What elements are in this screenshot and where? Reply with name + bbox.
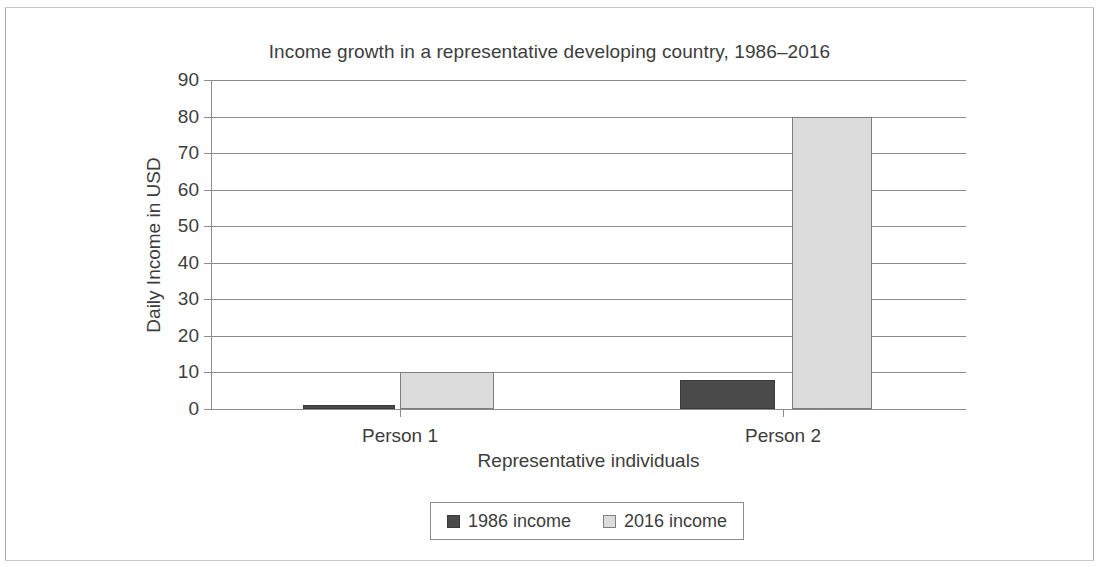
chart-title: Income growth in a representative develo… [0,41,1099,63]
y-axis-tick-label: 70 [178,142,199,164]
y-axis-tick-label: 60 [178,179,199,201]
y-axis-tick [204,409,211,410]
y-axis-tick-label: 20 [178,325,199,347]
bar-person-2-1986 [680,380,775,409]
bar-person-2-2016 [792,117,872,409]
y-axis-tick [204,190,211,191]
x-axis-tick [783,409,784,417]
x-axis-category-label: Person 2 [745,425,821,447]
gridline [211,409,966,410]
y-axis-tick [204,226,211,227]
y-axis-line [211,80,212,410]
y-axis-tick [204,153,211,154]
light-square-swatch [603,515,616,528]
y-axis-tick-label: 80 [178,106,199,128]
dark-square-swatch [447,515,460,528]
legend-entry: 1986 income [447,511,571,532]
figure-border-right [1093,7,1094,560]
legend-entry: 2016 income [603,511,727,532]
y-axis-tick-label: 0 [188,398,199,420]
y-axis-title: Daily Income in USD [143,80,167,410]
gridline [211,80,966,81]
y-axis-tick [204,263,211,264]
y-axis-tick-label: 30 [178,288,199,310]
y-axis-tick-label: 40 [178,252,199,274]
y-axis-tick [204,336,211,337]
y-axis-tick-label: 90 [178,69,199,91]
y-axis-tick [204,117,211,118]
y-axis-tick-label: 10 [178,361,199,383]
x-axis-category-label: Person 1 [362,425,438,447]
figure-border-top [5,7,1094,8]
y-axis-tick [204,372,211,373]
figure-border-left [5,7,6,560]
chart-legend: 1986 income2016 income [430,502,744,540]
legend-label: 2016 income [624,511,727,532]
y-axis-tick [204,299,211,300]
y-axis-tick-label: 50 [178,215,199,237]
legend-label: 1986 income [468,511,571,532]
x-axis-tick [400,409,401,417]
plot-area: 9080706050403020100 Person 1Person 2 [211,80,966,409]
figure-border-bottom [5,560,1094,561]
x-axis-title: Representative individuals [211,450,966,472]
y-axis-tick [204,80,211,81]
figure-container: Income growth in a representative develo… [0,0,1099,567]
bar-person-1-1986 [303,405,395,409]
bar-person-1-2016 [400,372,494,409]
